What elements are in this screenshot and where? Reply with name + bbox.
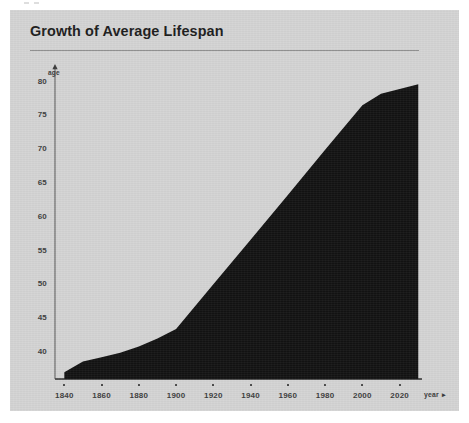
x-axis-label-text: year [424, 391, 439, 398]
x-tick-label: 1920 [196, 391, 230, 400]
y-tick-label: 50 [25, 279, 47, 288]
x-tick-mark [324, 384, 326, 386]
y-tick-label: 60 [25, 212, 47, 221]
x-tick-mark [101, 384, 103, 386]
x-tick-mark [175, 384, 177, 386]
x-tick-label: 1940 [234, 391, 268, 400]
x-tick-label: 1880 [122, 391, 156, 400]
screenshot-root: Growth of Average Lifespan age 404550556… [0, 0, 469, 423]
x-tick-label: 1960 [271, 391, 305, 400]
x-tick-label: 1900 [159, 391, 193, 400]
x-axis-label: year▸ [424, 391, 446, 399]
x-tick-mark [138, 384, 140, 386]
y-tick-label: 65 [25, 178, 47, 187]
y-tick-label: 55 [25, 246, 47, 255]
x-tick-mark [287, 384, 289, 386]
y-tick-label: 75 [25, 110, 47, 119]
x-tick-label: 2020 [383, 391, 417, 400]
y-tick-label: 45 [25, 313, 47, 322]
x-tick-label: 1980 [308, 391, 342, 400]
x-tick-label: 1860 [85, 391, 119, 400]
chart-svg [10, 10, 459, 411]
x-tick-mark [63, 384, 65, 386]
chart-card: Growth of Average Lifespan age 404550556… [10, 10, 459, 411]
area-chart [10, 10, 459, 411]
x-tick-mark [250, 384, 252, 386]
area-series-fill [64, 84, 418, 379]
y-tick-label: 70 [25, 144, 47, 153]
x-tick-label: 1840 [47, 391, 81, 400]
y-tick-label: 40 [25, 347, 47, 356]
y-tick-label: 80 [25, 77, 47, 86]
x-tick-mark [399, 384, 401, 386]
x-tick-label: 2000 [345, 391, 379, 400]
x-tick-mark [361, 384, 363, 386]
x-axis-arrow-icon: ▸ [442, 391, 446, 398]
y-axis-label: age [48, 69, 60, 76]
x-tick-mark [212, 384, 214, 386]
scan-artifact-marks [10, 0, 50, 8]
